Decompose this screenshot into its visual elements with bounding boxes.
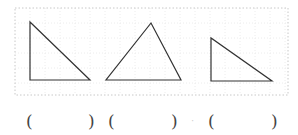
answer-2-close-paren: ) [171, 111, 178, 131]
triangle-3 [211, 38, 272, 81]
answer-3-open-paren: ( [208, 111, 215, 131]
triangle-grid-figure [0, 0, 298, 135]
answer-1-close-paren: ) [88, 111, 95, 131]
answer-3-close-paren: ) [271, 111, 278, 131]
background-grid [15, 8, 288, 95]
answer-2-open-paren: ( [108, 111, 115, 131]
separator-dot: · [191, 111, 194, 131]
answer-1-open-paren: ( [26, 111, 33, 131]
triangle-2 [106, 23, 181, 80]
dotted-border [15, 8, 288, 95]
